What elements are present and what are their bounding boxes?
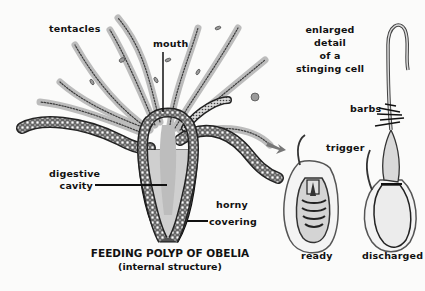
label-horny-covering-line2: covering xyxy=(209,216,257,227)
label-ready: ready xyxy=(301,250,333,261)
label-digestive-cavity-line2: cavity xyxy=(49,180,93,191)
label-discharged: discharged xyxy=(362,250,423,261)
label-mouth: mouth xyxy=(153,38,189,49)
label-digestive-cavity-line1: digestive xyxy=(49,168,95,179)
polyp-body xyxy=(138,113,198,243)
label-tentacles: tentacles xyxy=(49,23,101,34)
label-enlarged-line4: stinging cell xyxy=(296,63,364,74)
label-horny-covering-line1: horny xyxy=(216,199,248,210)
label-barbs: barbs xyxy=(350,103,381,114)
diagram-title: FEEDING POLYP OF OBELIA xyxy=(70,247,270,260)
label-enlarged-line2: detail xyxy=(300,37,360,48)
diagram-subtitle: (internal structure) xyxy=(70,261,270,273)
diagram-canvas: tentacles mouth digestive cavity horny c… xyxy=(0,0,425,291)
label-trigger: trigger xyxy=(326,142,365,153)
stinging-cell-discharged xyxy=(364,25,416,252)
label-enlarged-line1: enlarged xyxy=(300,24,360,35)
label-enlarged-line3: of a xyxy=(300,50,360,61)
